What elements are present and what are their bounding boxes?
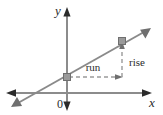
x-axis-left-arrowhead-icon bbox=[6, 89, 16, 97]
point-marker-upper bbox=[119, 38, 126, 45]
y-axis-label: y bbox=[53, 3, 61, 18]
slope-diagram-canvas: y x 0 run rise bbox=[0, 0, 163, 115]
run-label: run bbox=[86, 61, 101, 73]
y-axis-up-arrowhead-icon bbox=[63, 7, 70, 17]
point-marker-on-y-axis bbox=[64, 74, 71, 81]
origin-label: 0 bbox=[57, 97, 63, 111]
x-axis-label: x bbox=[148, 95, 155, 110]
y-axis-down-arrowhead-icon bbox=[63, 102, 70, 112]
rise-label: rise bbox=[129, 56, 145, 68]
slope-diagram-figure: y x 0 run rise bbox=[0, 0, 163, 115]
